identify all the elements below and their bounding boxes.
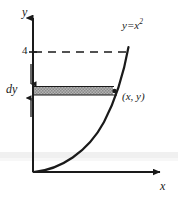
x-axis-label: x xyxy=(160,180,165,192)
y-tick-label-4: 4 xyxy=(22,45,28,56)
scan-band-artifact xyxy=(0,152,178,158)
strip-element-fill xyxy=(34,87,113,96)
point-coordinates-label: (x, y) xyxy=(122,91,145,102)
curve-equation-label: y=x2 xyxy=(122,18,143,31)
y-axis-label: y xyxy=(22,6,27,18)
scan-band-artifact-lower xyxy=(0,158,178,161)
figure-container: y x y=x2 4 dy (x, y) xyxy=(0,0,178,198)
curve-equation-exponent: 2 xyxy=(139,17,143,26)
curve-equation-base: y=x xyxy=(122,19,139,31)
curve-point-marker xyxy=(112,89,116,93)
dy-label: dy xyxy=(6,83,17,95)
parabola-figure-svg xyxy=(0,0,178,198)
